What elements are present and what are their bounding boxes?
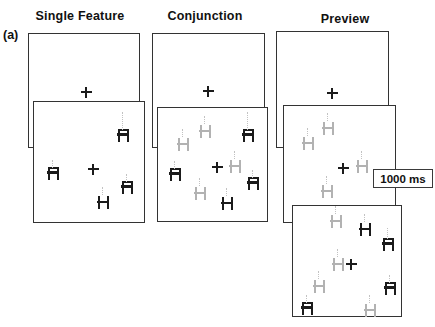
stimulus-letter-H-dark [222, 197, 233, 210]
stimulus-tick-mark [247, 112, 248, 130]
stimulus-letter-H-light [333, 258, 344, 271]
stimulus-tick-mark [204, 116, 205, 124]
fixation-cross [346, 259, 357, 270]
stimulus-letter-H-light [314, 280, 325, 293]
stimulus-tick-mark [122, 112, 123, 130]
stimulus-letter-A-dark [118, 129, 129, 142]
single-feature-search-screen [33, 101, 145, 223]
stimulus-letter-H-light [230, 160, 241, 173]
stimulus-letter-H-light [303, 137, 314, 150]
fixation-cross [88, 164, 99, 175]
stimulus-letter-H-light [331, 215, 342, 228]
figure-canvas: (a) Single Feature Conjunction Preview 1… [0, 0, 435, 327]
stimulus-letter-A-dark [248, 177, 259, 190]
fixation-cross [212, 162, 223, 173]
stimulus-tick-mark [126, 174, 127, 182]
stimulus-letter-H-dark [98, 196, 109, 209]
stimulus-letter-A-dark [122, 181, 133, 194]
fixation-cross [338, 163, 349, 174]
stimulus-tick-mark [318, 271, 319, 279]
stimulus-letter-H-light [365, 304, 376, 317]
stimulus-tick-mark [252, 170, 253, 178]
stimulus-tick-mark [364, 214, 365, 222]
fixation-cross [81, 87, 92, 98]
stimulus-tick-mark [326, 176, 327, 184]
stimulus-tick-mark [387, 228, 388, 239]
stimulus-letter-A-dark [170, 168, 181, 181]
stimulus-letter-H-light [195, 187, 206, 200]
condition-title-preview: Preview [285, 12, 405, 26]
condition-title-conjunction: Conjunction [145, 9, 265, 23]
stimulus-tick-mark [337, 249, 338, 257]
stimulus-tick-mark [369, 295, 370, 303]
conjunction-search-screen [157, 107, 268, 222]
fixation-cross [327, 88, 338, 99]
stimulus-letter-A-dark [243, 129, 254, 142]
stimulus-tick-mark [182, 129, 183, 137]
stimulus-tick-mark [234, 151, 235, 159]
condition-title-single-feature: Single Feature [20, 9, 140, 23]
stimulus-letter-A-dark [48, 167, 59, 180]
preview-search-screen [292, 205, 402, 317]
stimulus-letter-H-light [322, 185, 333, 198]
figure-panel-label: (a) [3, 28, 18, 42]
stimulus-tick-mark [52, 160, 53, 168]
stimulus-letter-A-dark [383, 238, 394, 251]
stimulus-tick-mark [361, 151, 362, 159]
stimulus-letter-H-light [200, 125, 211, 138]
stimulus-letter-H-light [323, 122, 334, 135]
stimulus-tick-mark [199, 178, 200, 186]
stimulus-letter-H-light [178, 138, 189, 151]
stimulus-letter-A-dark [385, 282, 396, 295]
stimulus-tick-mark [327, 113, 328, 121]
fixation-cross [203, 86, 214, 97]
stimulus-letter-H-light [357, 160, 368, 173]
stimulus-letter-A-dark [302, 302, 313, 315]
stimulus-tick-mark [335, 206, 336, 214]
stimulus-letter-H-dark [360, 223, 371, 236]
stimulus-tick-mark [306, 295, 307, 303]
duration-badge: 1000 ms [373, 169, 433, 188]
stimulus-tick-mark [389, 275, 390, 283]
stimulus-tick-mark [226, 188, 227, 196]
stimulus-tick-mark [174, 161, 175, 169]
stimulus-tick-mark [102, 187, 103, 195]
stimulus-tick-mark [307, 128, 308, 136]
